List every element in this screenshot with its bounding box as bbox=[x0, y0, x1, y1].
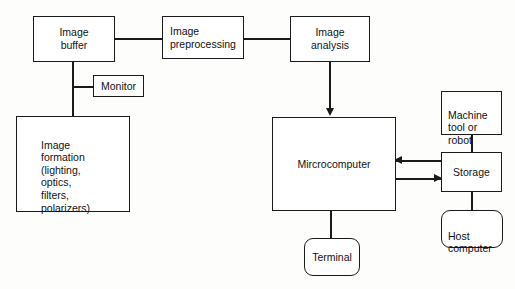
node-image-buffer[interactable]: Image buffer bbox=[33, 16, 115, 62]
edge-buffer-preprocessing bbox=[114, 38, 163, 40]
edge-buffer-formation bbox=[72, 61, 74, 119]
node-image-buffer-label: Image buffer bbox=[59, 26, 88, 51]
node-terminal-label: Terminal bbox=[312, 251, 352, 264]
node-host-computer-label: Host computer bbox=[448, 230, 502, 255]
node-host-computer[interactable]: Host computer bbox=[441, 210, 503, 248]
edge-microcomputer-terminal bbox=[330, 210, 332, 239]
arrowhead-analysis-microcomputer bbox=[326, 108, 334, 116]
node-image-preprocessing-label: Image preprocessing bbox=[170, 25, 236, 50]
node-image-analysis[interactable]: Image analysis bbox=[290, 16, 370, 62]
edge-storage-host bbox=[471, 191, 473, 211]
node-machine-tool[interactable]: Machine tool or robot bbox=[441, 91, 502, 135]
edge-storage-microcomputer bbox=[396, 160, 442, 162]
node-monitor[interactable]: Monitor bbox=[93, 75, 144, 97]
node-microcomputer-label: Mircrocomputer bbox=[298, 158, 371, 171]
node-image-preprocessing[interactable]: Image preprocessing bbox=[162, 16, 244, 59]
node-machine-tool-label: Machine tool or robot bbox=[448, 109, 501, 147]
node-terminal[interactable]: Terminal bbox=[304, 238, 360, 276]
diagram-canvas: Image buffer Monitor Image formation (li… bbox=[0, 0, 515, 289]
node-image-formation-label: Image formation (lighting, optics, filte… bbox=[41, 139, 129, 215]
node-storage[interactable]: Storage bbox=[441, 152, 502, 192]
edge-buffer-monitor bbox=[72, 86, 94, 88]
node-image-analysis-label: Image analysis bbox=[311, 26, 349, 51]
edge-preprocessing-analysis bbox=[243, 38, 291, 40]
node-image-formation[interactable]: Image formation (lighting, optics, filte… bbox=[16, 116, 130, 212]
node-storage-label: Storage bbox=[453, 166, 490, 179]
node-microcomputer[interactable]: Mircrocomputer bbox=[272, 117, 396, 211]
node-monitor-label: Monitor bbox=[101, 80, 136, 93]
edge-analysis-microcomputer bbox=[329, 62, 331, 110]
